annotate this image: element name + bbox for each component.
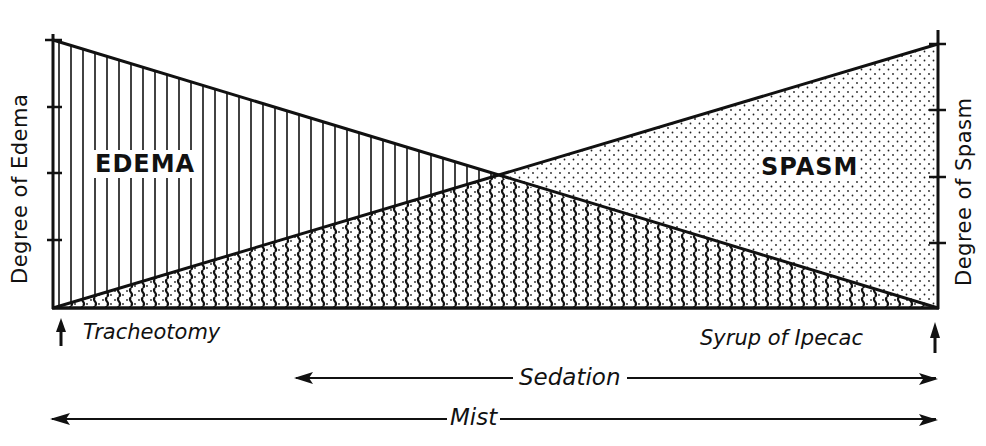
edema-label: EDEMA bbox=[93, 150, 197, 178]
mist-label: Mist bbox=[447, 404, 500, 430]
right-axis-title: Degree of Spasm bbox=[952, 98, 976, 286]
tracheotomy-up-arrow-icon bbox=[56, 318, 66, 346]
ipecac-label: Syrup of Ipecac bbox=[700, 326, 863, 350]
edema-spasm-diagram bbox=[0, 0, 986, 446]
ipecac-up-arrow-icon bbox=[930, 322, 940, 353]
spasm-label: SPASM bbox=[759, 153, 860, 181]
tracheotomy-label: Tracheotomy bbox=[83, 320, 220, 344]
sedation-label: Sedation bbox=[513, 364, 627, 390]
left-axis-title: Degree of Edema bbox=[8, 94, 32, 284]
